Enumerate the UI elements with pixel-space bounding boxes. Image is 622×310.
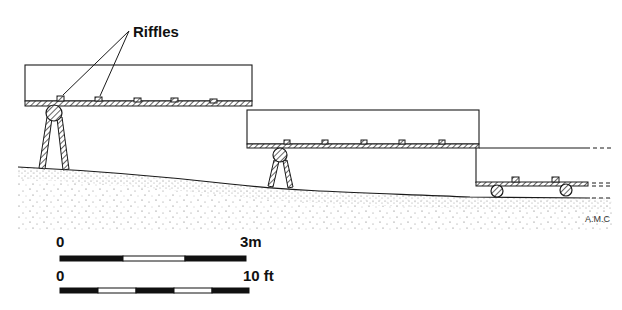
scale-metric-start-label: 0 <box>56 233 64 250</box>
riffle <box>512 177 519 182</box>
riffle <box>322 140 328 144</box>
riffle <box>439 140 445 144</box>
trestle-upper <box>39 105 69 170</box>
riffles-label: Riffles <box>133 23 179 40</box>
ground <box>18 167 612 232</box>
riffle <box>399 140 405 144</box>
scale-imperial-end-label: 10 ft <box>243 267 274 284</box>
riffle-5 <box>210 99 217 103</box>
box-floor <box>247 144 479 148</box>
trestle-middle <box>268 148 293 188</box>
callout-leader <box>100 31 129 96</box>
callout-leader <box>63 31 129 95</box>
sluice-box-upper <box>25 65 252 106</box>
artist-signature: A.M.C <box>585 214 611 224</box>
sluice-box-middle <box>247 110 479 148</box>
scale-bar-metric: 0 3m <box>56 233 262 261</box>
riffle-3 <box>134 98 141 102</box>
trestle-roller <box>273 148 287 162</box>
roller <box>491 185 503 197</box>
sluice-box-lower <box>476 148 612 197</box>
trestle-leg <box>268 160 279 187</box>
riffles-callout: Riffles <box>63 23 179 96</box>
roller <box>560 184 572 196</box>
scale-bar-imperial: 0 10 ft <box>56 267 274 293</box>
riffle-1 <box>57 96 64 101</box>
riffles <box>284 140 445 144</box>
scale-metric-end-label: 3m <box>240 233 262 250</box>
trestle-leg <box>57 117 69 170</box>
scale-imperial-start-label: 0 <box>56 267 64 284</box>
trestle-leg <box>39 117 52 169</box>
sluice-box-diagram: Riffles A.M.C 0 3m 0 10 ft <box>0 0 622 310</box>
riffle-4 <box>171 98 178 102</box>
riffle <box>284 140 290 144</box>
box-floor <box>476 182 588 186</box>
riffle <box>361 140 367 144</box>
trestle-leg <box>283 160 293 188</box>
trestle-roller <box>46 105 62 121</box>
riffle <box>552 177 559 182</box>
riffle-2 <box>95 97 102 101</box>
